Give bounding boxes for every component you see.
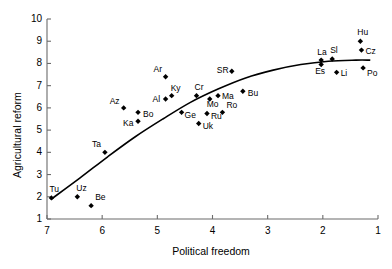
data-point-marker	[135, 119, 140, 124]
data-point-label: Cz	[365, 47, 375, 56]
y-tick-label: 1	[17, 214, 42, 224]
data-point-label: Al	[153, 95, 161, 104]
data-point-label: Ar	[154, 65, 163, 74]
data-point-label: Bu	[248, 89, 258, 98]
x-tick-label: 7	[37, 226, 57, 236]
y-axis-title: Agricultural reform	[11, 92, 23, 178]
data-point-label: Cr	[195, 83, 204, 92]
data-point-label: Po	[367, 69, 377, 78]
data-point-label: Az	[110, 97, 120, 106]
data-point-label: Es	[315, 67, 325, 76]
y-axis-title-wrap: Agricultural reform	[0, 0, 17, 230]
y-tick-label: 8	[17, 58, 42, 68]
data-point-label: Mo	[207, 100, 219, 109]
x-tick-label: 6	[92, 226, 112, 236]
x-axis-ticks	[47, 215, 378, 219]
data-point-marker	[121, 105, 126, 110]
data-point-label: Ta	[92, 140, 101, 149]
data-point-marker	[169, 93, 174, 98]
data-point-marker	[102, 150, 107, 155]
data-point-label: Tu	[49, 185, 59, 194]
y-tick-label: 10	[17, 14, 42, 24]
data-point-marker	[358, 39, 363, 44]
x-tick-label: 1	[368, 226, 388, 236]
scatter-chart: 765432112345678910 TuUzBeTaAzBoKaArAlKyC…	[0, 0, 392, 269]
data-point-label: Ro	[226, 101, 237, 110]
data-point-marker	[135, 110, 140, 115]
data-point-label: Uk	[203, 122, 213, 131]
data-point-label: Ky	[171, 84, 181, 93]
data-point-label: Bo	[143, 110, 153, 119]
data-point-marker	[75, 194, 80, 199]
data-point-label: Uz	[76, 184, 86, 193]
data-point-label: Ge	[185, 111, 196, 120]
data-point-label: Be	[95, 193, 105, 202]
data-point-marker	[215, 93, 220, 98]
data-point-marker	[334, 70, 339, 75]
x-tick-label: 2	[313, 226, 333, 236]
data-point-marker	[229, 69, 234, 74]
data-point-marker	[49, 195, 54, 200]
y-tick-label: 9	[17, 36, 42, 46]
data-point-marker	[360, 65, 365, 70]
y-tick-label: 2	[17, 192, 42, 202]
data-point-marker	[196, 121, 201, 126]
data-point-marker	[163, 96, 168, 101]
data-point-marker	[204, 111, 209, 116]
data-point-marker	[179, 110, 184, 115]
x-axis-title: Political freedom	[0, 246, 392, 257]
y-tick-label: 7	[17, 81, 42, 91]
data-point-label: Li	[341, 69, 348, 78]
data-point-marker	[240, 89, 245, 94]
plot-area	[0, 0, 392, 269]
data-point-marker	[359, 47, 364, 52]
data-point-label: Hu	[357, 28, 368, 37]
x-tick-label: 5	[147, 226, 167, 236]
data-point-label: Ru	[211, 112, 222, 121]
data-point-marker	[88, 203, 93, 208]
x-tick-label: 4	[203, 226, 223, 236]
x-tick-label: 3	[258, 226, 278, 236]
data-point-label: Ka	[123, 119, 133, 128]
data-point-marker	[163, 74, 168, 79]
data-point-label: Sl	[330, 46, 338, 55]
data-point-label: La	[317, 48, 326, 57]
data-point-label: Ma	[222, 92, 234, 101]
data-point-label: SR	[217, 66, 229, 75]
